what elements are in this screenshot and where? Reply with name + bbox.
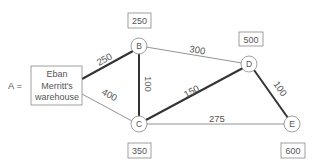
edge-label-c-d: 150 [182,83,201,100]
edge-label-b-c: 100 [143,76,154,92]
source-prefix: A = [8,80,22,91]
source-line-3: warehouse [34,92,79,102]
node-c-label: C [136,119,142,129]
node-e-value: 600 [285,146,300,156]
node-d-label: D [246,59,252,69]
source-line-2: Merritt's [41,81,73,91]
node-c-value: 350 [132,146,147,156]
node-b-value: 250 [132,16,147,26]
node-b-label: B [136,41,142,51]
source-line-1: Eban [46,69,67,79]
edge-label-c-e: 275 [209,113,225,124]
node-d-value: 500 [243,35,258,45]
network-diagram: 250 400 100 300 150 275 100 A = Eban Mer… [0,0,314,165]
node-e-label: E [289,119,295,129]
edge-label-d-e: 100 [271,79,289,98]
edge-label-a-b: 250 [95,50,114,67]
edge-label-a-c: 400 [100,86,119,103]
